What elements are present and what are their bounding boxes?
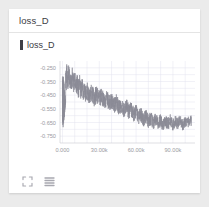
svg-text:-0.250: -0.250 [40,65,56,71]
svg-text:-0.750: -0.750 [40,133,56,139]
chart-legend[interactable]: loss_D [20,39,55,51]
page-title: loss_D [9,15,49,26]
svg-text:-0.350: -0.350 [40,79,56,85]
svg-text:90.00k: 90.00k [165,147,182,153]
y-axis-tick-labels: -0.250-0.350-0.450-0.550-0.650-0.750 [40,65,56,139]
svg-text:-0.650: -0.650 [40,120,56,126]
svg-text:0.000: 0.000 [55,147,69,153]
svg-text:30.00k: 30.00k [91,147,108,153]
list-menu-icon[interactable] [43,174,56,187]
chart-panel-card: loss_D loss_D -0.250-0.350-0.450-0.550-0… [9,9,200,193]
svg-text:-0.550: -0.550 [40,106,56,112]
panel-header: loss_D [9,9,200,33]
legend-item-label: loss_D [27,40,55,50]
svg-text:60.00k: 60.00k [128,147,145,153]
legend-color-marker [20,40,23,50]
chart-gridlines [60,61,195,143]
chart-svg: -0.250-0.350-0.450-0.550-0.650-0.750 0.0… [9,55,200,165]
panel-body: loss_D -0.250-0.350-0.450-0.550-0.650-0.… [9,33,200,193]
line-chart[interactable]: -0.250-0.350-0.450-0.550-0.650-0.750 0.0… [9,55,200,165]
chart-series-group [62,64,191,130]
fullscreen-expand-icon[interactable] [21,174,34,187]
x-axis-tick-labels: 0.00030.00k60.00k90.00k [55,147,181,153]
svg-text:-0.450: -0.450 [40,92,56,98]
panel-toolbar [21,174,56,187]
